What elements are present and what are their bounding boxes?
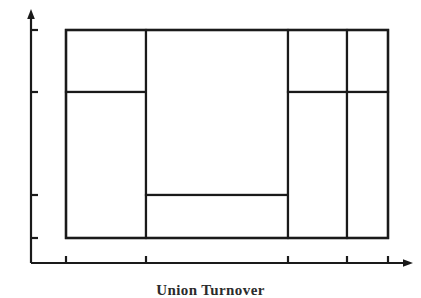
mosaic-cell-2-bottom[interactable] (146, 195, 288, 238)
mosaic-tiles-group (66, 30, 388, 238)
mosaic-cell-1-bottom[interactable] (66, 92, 146, 238)
figure-caption-text: Union Turnover (0, 283, 421, 298)
mosaic-cell-4-top[interactable] (347, 30, 388, 92)
plot-svg (0, 0, 421, 298)
figure-caption: Union Turnover (0, 283, 421, 298)
mosaic-cell-3-top[interactable] (288, 30, 347, 92)
mosaic-plot-figure (0, 0, 421, 298)
mosaic-cell-4-bottom[interactable] (347, 92, 388, 238)
y-axis-arrow-icon (27, 9, 35, 19)
mosaic-cell-3-bottom[interactable] (288, 92, 347, 238)
mosaic-cell-1-top[interactable] (66, 30, 146, 92)
x-axis-arrow-icon (403, 259, 413, 267)
mosaic-cell-2-top[interactable] (146, 30, 288, 195)
screenshot-root: Union Turnover (0, 0, 421, 298)
